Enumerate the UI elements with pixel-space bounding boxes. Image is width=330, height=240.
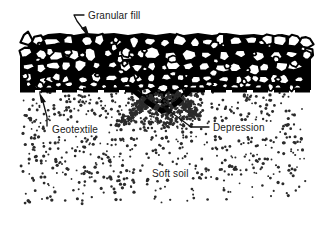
disturbed-soil-dot <box>143 89 146 92</box>
soil-stipple-dot <box>261 184 264 187</box>
disturbed-soil-dot <box>163 126 166 129</box>
soil-stipple-dot <box>91 109 93 111</box>
soil-stipple-dot <box>64 173 67 176</box>
soil-stipple-dot <box>50 198 53 201</box>
soil-stipple-dot <box>265 120 267 122</box>
soil-stipple-dot <box>52 104 55 107</box>
disturbed-soil-dot <box>143 126 146 129</box>
soil-stipple-dot <box>253 172 255 174</box>
soil-stipple-dot <box>79 150 81 152</box>
disturbed-soil-dot <box>123 122 125 124</box>
soil-stipple-dot <box>296 166 298 168</box>
aggregate-stone <box>252 52 256 56</box>
soil-stipple-dot <box>214 138 217 141</box>
soil-stipple-dot <box>49 119 51 121</box>
soil-stipple-dot <box>262 97 265 100</box>
soil-stipple-dot <box>262 118 264 120</box>
soil-stipple-dot <box>234 166 236 168</box>
soil-stipple-dot <box>69 115 72 118</box>
soil-stipple-dot <box>43 182 46 185</box>
disturbed-soil-dot <box>187 101 190 104</box>
aggregate-stone <box>38 43 42 46</box>
soil-stipple-dot <box>90 153 92 155</box>
disturbed-soil-dot <box>149 96 152 99</box>
soil-stipple-dot <box>192 194 194 196</box>
soil-stipple-dot <box>38 126 40 128</box>
soil-stipple-dot <box>28 157 31 160</box>
disturbed-soil-dot <box>183 88 185 90</box>
soil-stipple-dot <box>177 158 179 160</box>
soil-stipple-dot <box>114 198 117 201</box>
disturbed-soil-dot <box>140 120 144 124</box>
soil-stipple-dot <box>97 156 100 159</box>
soil-stipple-dot <box>271 159 273 161</box>
geotextile-arrowhead <box>39 92 46 103</box>
soil-stipple-dot <box>84 102 86 104</box>
soil-stipple-dot <box>284 124 286 126</box>
aggregate-stone <box>209 69 218 76</box>
soil-stipple-dot <box>104 105 106 107</box>
soil-stipple-dot <box>109 165 111 167</box>
soil-stipple-dot <box>207 122 209 124</box>
soil-stipple-dot <box>48 147 51 150</box>
soil-stipple-dot <box>247 112 250 115</box>
soil-stipple-dot <box>73 108 75 110</box>
soil-stipple-dot <box>78 100 81 103</box>
aggregate-stone <box>63 35 73 44</box>
soil-stipple-dot <box>210 176 212 178</box>
soil-stipple-dot <box>99 143 101 145</box>
disturbed-soil-dot <box>168 99 170 101</box>
soil-stipple-dot <box>251 137 253 139</box>
soil-stipple-dot <box>287 117 290 120</box>
disturbed-soil-dot <box>162 113 164 115</box>
soil-stipple-dot <box>47 183 49 185</box>
soil-stipple-dot <box>85 100 87 102</box>
aggregate-stone <box>275 77 281 81</box>
soil-stipple-dot <box>61 157 63 159</box>
soil-stipple-dot <box>119 183 122 186</box>
soil-stipple-dot <box>132 138 135 141</box>
soil-stipple-dot <box>244 118 247 121</box>
soil-stipple-dot <box>118 112 121 115</box>
disturbed-soil-dot <box>125 119 127 121</box>
soil-stipple-dot <box>190 135 192 137</box>
aggregate-stone <box>129 36 139 48</box>
soil-stipple-dot <box>290 150 292 152</box>
soil-stipple-dot <box>34 156 37 159</box>
soil-stipple-dot <box>258 158 261 161</box>
soil-stipple-dot <box>106 150 108 152</box>
soil-stipple-dot <box>119 156 121 158</box>
soil-stipple-dot <box>129 171 131 173</box>
soil-stipple-dot <box>146 183 149 186</box>
soil-stipple-dot <box>42 154 45 157</box>
soil-stipple-dot <box>95 164 97 166</box>
soil-stipple-dot <box>265 103 268 106</box>
soil-stipple-dot <box>146 179 149 182</box>
disturbed-soil-dot <box>193 106 195 108</box>
soil-stipple-dot <box>161 164 163 166</box>
soil-stipple-dot <box>304 180 306 182</box>
soil-stipple-dot <box>216 155 218 157</box>
soil-stipple-dot <box>200 158 203 161</box>
soil-stipple-dot <box>76 197 79 200</box>
soil-stipple-dot <box>81 173 83 175</box>
soil-stipple-dot <box>301 108 303 110</box>
soil-stipple-dot <box>192 177 195 180</box>
soil-stipple-dot <box>256 160 259 163</box>
soil-stipple-dot <box>218 104 220 106</box>
soil-stipple-dot <box>23 100 25 102</box>
soil-stipple-dot <box>132 168 135 171</box>
soil-stipple-dot <box>270 195 272 197</box>
soil-stipple-dot <box>172 161 174 163</box>
soil-stipple-dot <box>104 110 107 113</box>
soil-stipple-dot <box>271 147 273 149</box>
disturbed-soil-dot <box>190 112 193 115</box>
aggregate-stone <box>242 79 247 84</box>
soil-stipple-dot <box>249 159 251 161</box>
soil-stipple-dot <box>127 102 130 105</box>
soil-stipple-dot <box>84 180 87 183</box>
soil-stipple-dot <box>229 145 232 148</box>
disturbed-soil-dot <box>131 103 133 105</box>
soil-stipple-dot <box>126 177 129 180</box>
soil-stipple-dot <box>121 186 124 189</box>
